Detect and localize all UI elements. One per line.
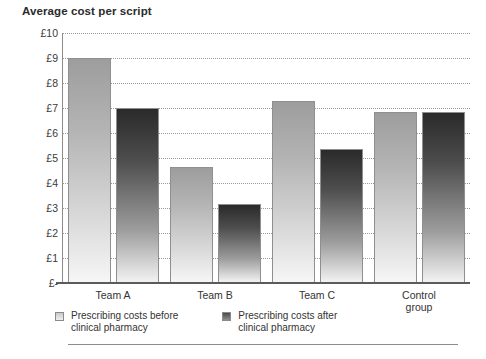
bottom-divider [68,344,458,345]
gridline [62,83,470,84]
gridline [62,58,470,59]
legend-item-before[interactable]: Prescribing costs before clinical pharma… [55,310,178,333]
y-axis-tick-label: £1 [20,252,58,264]
x-axis-category-label: Team A [62,289,164,301]
y-axis-line [62,33,63,283]
bar-before-team-b [170,167,213,283]
legend-swatch-after-icon [222,312,231,321]
y-axis-tick-label: £2 [20,227,58,239]
y-axis-tick-label: £10 [20,27,58,39]
y-axis-tick-label: £9 [20,52,58,64]
legend-label: Prescribing costs after clinical pharmac… [238,310,337,333]
x-axis-category-label: Control group [368,289,470,313]
x-axis-category-label: Team C [266,289,368,301]
bar-after-team-a [116,108,159,283]
legend-label: Prescribing costs before clinical pharma… [71,310,178,333]
chart-title: Average cost per script [22,5,152,17]
x-axis-category-label: Team B [164,289,266,301]
y-axis-tick-label: £3 [20,202,58,214]
bar-before-control-group [374,112,417,283]
y-axis-tick-label: £8 [20,77,58,89]
legend-item-after[interactable]: Prescribing costs after clinical pharmac… [222,310,337,333]
y-axis: £10£9£8£7£6£5£4£3£2£1£- [14,33,58,283]
bar-after-control-group [422,112,465,283]
plot-area [62,33,470,283]
x-axis-line [56,282,470,284]
y-axis-tick-label: £- [20,277,58,289]
bar-before-team-a [68,58,111,283]
y-axis-tick-label: £6 [20,127,58,139]
legend-swatch-before-icon [55,312,64,321]
chart-figure: Average cost per script £10£9£8£7£6£5£4£… [0,0,486,359]
y-axis-tick-label: £4 [20,177,58,189]
chart-legend: Prescribing costs before clinical pharma… [55,310,337,333]
y-axis-tick-label: £5 [20,152,58,164]
y-axis-tick-label: £7 [20,102,58,114]
bar-after-team-c [320,149,363,283]
gridline [62,33,470,34]
bar-after-team-b [218,204,261,283]
bar-before-team-c [272,101,315,284]
